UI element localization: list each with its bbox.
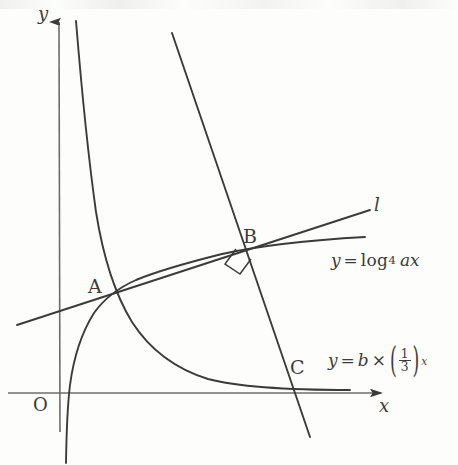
exp-eq-denominator: 3 [399, 360, 411, 373]
figure-canvas [0, 0, 458, 465]
line-l-label: l [374, 196, 380, 214]
exp-eq-paren-open: ( [390, 343, 397, 379]
line-l [17, 210, 370, 325]
log-eq-equals: = [344, 252, 358, 269]
log-eq-lhs: y [331, 252, 341, 269]
exp-eq-coefficient: b [358, 352, 369, 369]
exp-eq-numerator: 1 [399, 348, 411, 360]
exp-eq-lhs: y [328, 352, 338, 369]
point-label-c: C [290, 358, 305, 377]
log-eq-logname: log [361, 252, 388, 269]
origin-label: O [33, 396, 48, 414]
exp-eq-exponent: x [421, 356, 427, 367]
exponential-curve [76, 21, 350, 390]
exp-eq-paren-close: ) [413, 343, 420, 379]
log-eq-argument: ax [400, 252, 420, 269]
math-figure: y x O A B C l y = log4 ax y = b × ( 1 3 … [0, 0, 458, 465]
log-curve [66, 237, 365, 463]
log-equation-label: y = log4 ax [331, 252, 420, 269]
exp-eq-times: × [372, 352, 386, 369]
exp-eq-equals: = [341, 352, 355, 369]
exponential-equation-label: y = b × ( 1 3 )x [328, 348, 427, 374]
log-eq-base: 4 [389, 255, 396, 267]
y-axis [59, 22, 60, 432]
y-axis-label: y [38, 5, 48, 23]
x-axis-label: x [379, 397, 389, 415]
point-label-b: B [243, 227, 257, 246]
point-label-a: A [88, 277, 102, 296]
exp-eq-fraction: 1 3 [399, 348, 411, 374]
